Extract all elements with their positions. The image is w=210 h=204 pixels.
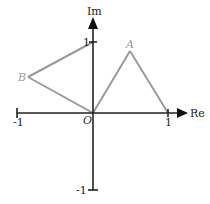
tick-label-re-neg: -1 (13, 116, 24, 129)
segment-o-b (28, 77, 93, 113)
point-b-label: B (17, 71, 26, 84)
axes (17, 26, 180, 190)
real-axis-arrow-icon (177, 108, 188, 118)
complex-plane-diagram: Re Im O -1 1 1 -1 A B (0, 0, 210, 204)
imag-axis-arrow-icon (88, 17, 98, 29)
imag-axis-label: Im (87, 5, 102, 18)
triangle-segments (28, 42, 168, 113)
point-a-label: A (125, 38, 134, 51)
origin-label: O (83, 114, 92, 127)
tick-label-im-neg: -1 (76, 184, 87, 197)
real-axis-label: Re (190, 107, 205, 120)
segment-o-a (93, 51, 130, 113)
tick-label-im-pos: 1 (83, 36, 90, 49)
tick-label-re-pos: 1 (165, 116, 172, 129)
segment-a-one (130, 51, 168, 113)
